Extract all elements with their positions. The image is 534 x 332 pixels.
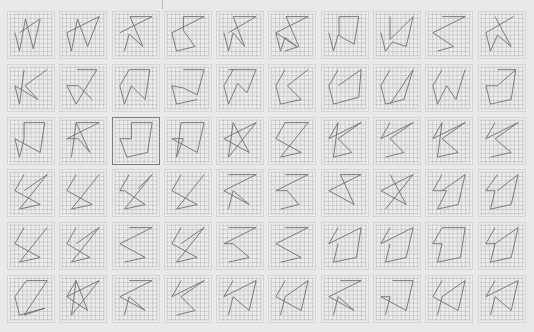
polygon-tile[interactable] bbox=[425, 222, 473, 270]
polygon-tile[interactable] bbox=[59, 11, 107, 59]
polygon-tile[interactable] bbox=[373, 169, 421, 217]
polygon-tile[interactable] bbox=[216, 275, 264, 323]
polygon-drawing-icon bbox=[374, 118, 420, 164]
polygon-tile[interactable] bbox=[425, 64, 473, 112]
polygon-tile[interactable] bbox=[164, 222, 212, 270]
polygon-tile[interactable] bbox=[216, 64, 264, 112]
polygon-drawing-icon bbox=[269, 223, 315, 269]
polygon-drawing-icon bbox=[322, 276, 368, 322]
polygon-drawing-icon bbox=[322, 223, 368, 269]
polygon-tile[interactable] bbox=[216, 11, 264, 59]
polygon-drawing-icon bbox=[165, 65, 211, 111]
polygon-drawing-icon bbox=[217, 276, 263, 322]
polygon-tile[interactable] bbox=[373, 275, 421, 323]
polygon-tile[interactable] bbox=[373, 222, 421, 270]
polygon-drawing-icon bbox=[426, 223, 472, 269]
polygon-drawing-icon bbox=[60, 65, 106, 111]
polygon-tile[interactable] bbox=[164, 117, 212, 165]
polygon-drawing-icon bbox=[165, 170, 211, 216]
polygon-tile[interactable] bbox=[373, 117, 421, 165]
polygon-drawing-icon bbox=[269, 65, 315, 111]
polygon-tile[interactable] bbox=[268, 222, 316, 270]
polygon-tile[interactable] bbox=[321, 11, 369, 59]
polygon-tile[interactable] bbox=[112, 222, 160, 270]
polygon-tile-grid bbox=[7, 11, 526, 323]
polygon-drawing-icon bbox=[374, 276, 420, 322]
polygon-drawing-icon bbox=[479, 118, 525, 164]
polygon-tile[interactable] bbox=[268, 275, 316, 323]
polygon-drawing-icon bbox=[269, 170, 315, 216]
polygon-tile[interactable] bbox=[478, 169, 526, 217]
polygon-tile[interactable] bbox=[164, 275, 212, 323]
polygon-tile[interactable] bbox=[425, 117, 473, 165]
polygon-tile[interactable] bbox=[164, 169, 212, 217]
polygon-drawing-icon bbox=[479, 276, 525, 322]
polygon-tile[interactable] bbox=[7, 64, 55, 112]
polygon-tile[interactable] bbox=[478, 275, 526, 323]
polygon-tile[interactable] bbox=[321, 222, 369, 270]
polygon-tile[interactable] bbox=[478, 11, 526, 59]
polygon-tile[interactable] bbox=[425, 275, 473, 323]
polygon-drawing-icon bbox=[8, 118, 54, 164]
polygon-tile[interactable] bbox=[164, 64, 212, 112]
polygon-tile[interactable] bbox=[478, 222, 526, 270]
polygon-drawing-icon bbox=[426, 118, 472, 164]
polygon-tile[interactable] bbox=[478, 117, 526, 165]
polygon-tile[interactable] bbox=[268, 64, 316, 112]
polygon-tile[interactable] bbox=[216, 117, 264, 165]
polygon-drawing-icon bbox=[8, 12, 54, 58]
polygon-tile[interactable] bbox=[7, 11, 55, 59]
polygon-tile[interactable] bbox=[268, 169, 316, 217]
polygon-tile[interactable] bbox=[59, 275, 107, 323]
polygon-tile[interactable] bbox=[321, 117, 369, 165]
polygon-tile[interactable] bbox=[59, 169, 107, 217]
polygon-drawing-icon bbox=[165, 276, 211, 322]
polygon-tile[interactable] bbox=[321, 169, 369, 217]
header-right-label: · · · · bbox=[168, 0, 185, 2]
polygon-drawing-icon bbox=[113, 276, 159, 322]
polygon-tile[interactable] bbox=[373, 64, 421, 112]
polygon-tile[interactable] bbox=[164, 11, 212, 59]
polygon-drawing-icon bbox=[60, 223, 106, 269]
polygon-drawing-icon bbox=[113, 223, 159, 269]
polygon-tile[interactable] bbox=[59, 64, 107, 112]
polygon-tile[interactable] bbox=[112, 169, 160, 217]
polygon-tile[interactable] bbox=[425, 11, 473, 59]
polygon-tile[interactable] bbox=[112, 117, 160, 165]
polygon-drawing-icon bbox=[479, 170, 525, 216]
polygon-drawing-icon bbox=[322, 12, 368, 58]
polygon-tile[interactable] bbox=[268, 117, 316, 165]
polygon-drawing-icon bbox=[8, 170, 54, 216]
polygon-drawing-icon bbox=[479, 223, 525, 269]
polygon-drawing-icon bbox=[217, 223, 263, 269]
polygon-tile[interactable] bbox=[216, 222, 264, 270]
polygon-drawing-icon bbox=[322, 65, 368, 111]
polygon-drawing-icon bbox=[113, 12, 159, 58]
polygon-tile[interactable] bbox=[7, 222, 55, 270]
polygon-tile[interactable] bbox=[59, 222, 107, 270]
polygon-tile[interactable] bbox=[321, 64, 369, 112]
polygon-tile[interactable] bbox=[7, 275, 55, 323]
polygon-tile[interactable] bbox=[112, 11, 160, 59]
polygon-drawing-icon bbox=[426, 170, 472, 216]
polygon-tile[interactable] bbox=[7, 169, 55, 217]
polygon-drawing-icon bbox=[479, 65, 525, 111]
polygon-drawing-icon bbox=[426, 12, 472, 58]
polygon-tile[interactable] bbox=[373, 11, 421, 59]
polygon-tile[interactable] bbox=[321, 275, 369, 323]
polygon-drawing-icon bbox=[217, 118, 263, 164]
polygon-drawing-icon bbox=[269, 276, 315, 322]
polygon-drawing-icon bbox=[322, 118, 368, 164]
polygon-tile[interactable] bbox=[112, 275, 160, 323]
polygon-tile[interactable] bbox=[112, 64, 160, 112]
polygon-tile[interactable] bbox=[478, 64, 526, 112]
polygon-tile[interactable] bbox=[216, 169, 264, 217]
polygon-tile[interactable] bbox=[268, 11, 316, 59]
polygon-drawing-icon bbox=[60, 170, 106, 216]
polygon-tile[interactable] bbox=[59, 117, 107, 165]
polygon-tile[interactable] bbox=[425, 169, 473, 217]
header-divider bbox=[162, 0, 163, 9]
polygon-tile[interactable] bbox=[7, 117, 55, 165]
polygon-drawing-icon bbox=[8, 276, 54, 322]
polygon-drawing-icon bbox=[269, 12, 315, 58]
